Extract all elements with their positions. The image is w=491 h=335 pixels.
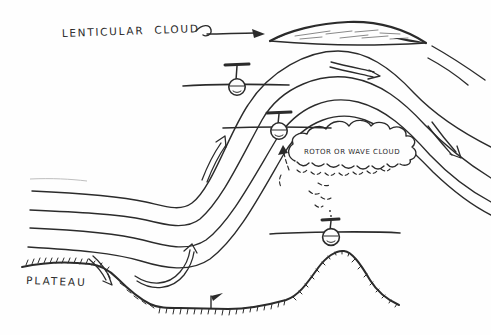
glider-upper: [183, 64, 289, 95]
windward-climb-arrow: [202, 136, 226, 182]
glider-tailplane: [225, 64, 249, 65]
wind-flag: [211, 293, 223, 308]
glider-fin: [236, 66, 237, 80]
streamline-1: [32, 51, 491, 208]
glider-tailplane: [267, 112, 291, 113]
flow-arrows: [89, 62, 461, 288]
streamline-top-right-a: [432, 46, 485, 80]
rotor-cloud-label: ROTOR OR WAVE CLOUD: [304, 148, 400, 156]
lee-wave-diagram: ROTOR OR WAVE CLOUD: [0, 0, 491, 335]
label-leader-arrow: [196, 26, 265, 38]
hill-left-hatching: [293, 251, 349, 300]
turbulence-dots: [329, 210, 332, 217]
faint-streamline: [30, 179, 87, 181]
glider-tailplane: [322, 219, 339, 220]
streamline-top-right-b: [428, 58, 468, 85]
glider-lower: [270, 219, 400, 245]
streamline-2: [30, 77, 491, 226]
streamline-4: [28, 116, 491, 268]
valley-upswing-arrow: [135, 244, 197, 288]
plateau-label: PLATEAU: [26, 274, 87, 288]
lenticular-cloud-label: LENTICULAR CLOUD: [62, 22, 200, 39]
rotor-turbulence: [280, 169, 391, 207]
wave-streamlines: [28, 46, 491, 268]
sketch-page: ROTOR OR WAVE CLOUD: [0, 0, 491, 335]
lenticular-cloud: [270, 22, 426, 45]
